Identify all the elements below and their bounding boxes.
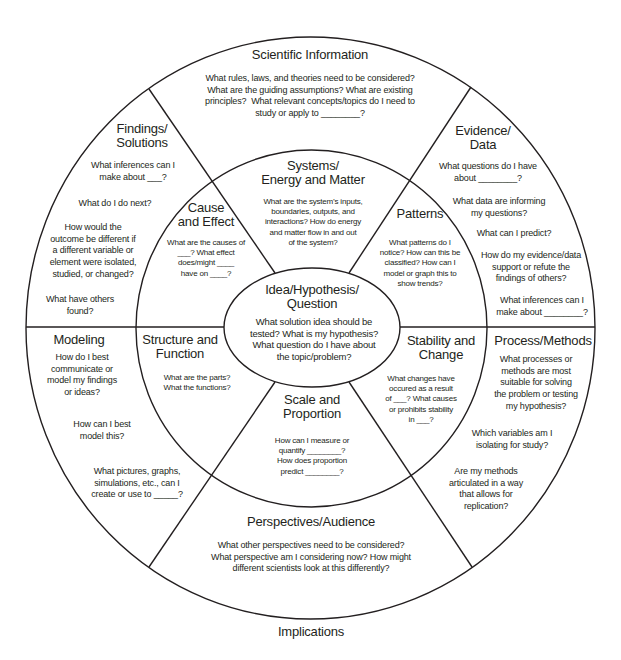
section-question: What inferences can I make about _______… [496, 295, 588, 318]
section-question: What data are informing my questions? [453, 196, 546, 219]
center-title: Idea/Hypothesis/ Question [265, 283, 359, 311]
section-title: Scale and Proportion [283, 393, 341, 421]
section-question: How do I best communicate or model my fi… [47, 352, 117, 399]
section-question: Which variables am I isolating for study… [472, 428, 553, 451]
section-question: What inferences can I make about ___? [91, 160, 175, 183]
section-question: How would the outcome be different if a … [50, 222, 137, 281]
section-title: Modeling [53, 333, 104, 347]
section-question: Are my methods articulated in a way that… [449, 466, 523, 513]
section-question: How do my evidence/data support or refut… [481, 250, 581, 285]
section-title: Perspectives/Audience [247, 515, 375, 529]
section-title: Systems/ Energy and Matter [261, 159, 365, 187]
section-title: Scientific Information [252, 48, 368, 62]
inquiry-wheel-diagram: Scientific Information What rules, laws,… [0, 0, 621, 660]
section-title: Patterns [397, 207, 444, 221]
section-question: What are the system’s inputs, boundaries… [264, 197, 363, 248]
section-question: What processes or methods are most suita… [494, 354, 578, 413]
section-question: What are the causes of ___? What effect … [167, 238, 245, 279]
section-question: What patterns do I notice? How can this … [380, 238, 460, 289]
section-question: How can I measure or quantify ________? … [275, 436, 349, 477]
section-question: What changes have occured as a result of… [385, 374, 456, 425]
center-question: What solution idea should be tested? Wha… [250, 316, 378, 363]
section-question: What have others found? [46, 294, 114, 317]
section-question: What questions do I have about ________? [439, 161, 537, 184]
section-title: Structure and Function [142, 333, 217, 361]
section-title: Evidence/ Data [455, 124, 510, 152]
section-question: What do I do next? [79, 198, 152, 210]
section-question: What are the parts? What the functions? [164, 373, 231, 393]
section-question: How can I best model this? [73, 419, 130, 442]
section-question: What other perspectives need to be consi… [211, 540, 411, 575]
section-title: Cause and Effect [178, 201, 234, 229]
section-title: Process/Methods [494, 334, 591, 348]
section-title: Findings/ Solutions [116, 122, 168, 150]
section-title: Stability and Change [407, 334, 475, 362]
implications-label: Implications [278, 625, 344, 639]
section-question: What can I predict? [477, 228, 552, 240]
section-question: What rules, laws, and theories need to b… [205, 73, 415, 120]
section-question: What pictures, graphs, simulations, etc.… [91, 466, 183, 501]
